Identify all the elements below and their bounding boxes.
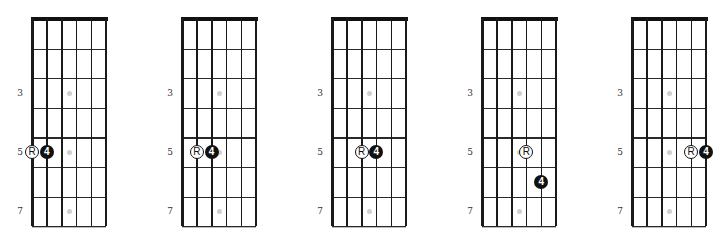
string-line	[376, 18, 378, 226]
string-line	[676, 18, 678, 226]
fret-line	[482, 137, 556, 138]
fret-line	[482, 49, 556, 50]
fret-line	[332, 137, 406, 138]
inlay-dot	[667, 91, 672, 96]
fret-number-label: 7	[614, 206, 626, 216]
fret-number-label: 5	[164, 147, 176, 157]
string-line	[346, 18, 349, 226]
string-line	[105, 18, 106, 226]
inlay-dot	[67, 150, 72, 155]
root-note-marker: R	[190, 145, 204, 159]
string-line	[46, 18, 49, 226]
inlay-dot	[517, 91, 522, 96]
fret-number-label: 7	[164, 206, 176, 216]
string-line	[555, 18, 556, 226]
string-line	[526, 18, 528, 226]
fret-line	[32, 197, 106, 198]
string-line	[541, 18, 542, 226]
string-line	[391, 18, 392, 226]
string-line	[705, 18, 706, 226]
interval-note-marker: 4	[534, 175, 548, 189]
fret-line	[632, 197, 706, 198]
fret-line	[182, 108, 256, 109]
string-line	[646, 18, 649, 226]
inlay-dot	[667, 150, 672, 155]
string-line	[76, 18, 78, 226]
string-line	[405, 18, 406, 226]
root-note-marker: R	[25, 145, 39, 159]
string-line	[661, 18, 663, 226]
fret-line	[32, 49, 106, 50]
fret-number-label: 3	[464, 88, 476, 98]
string-line	[31, 18, 34, 226]
fret-line	[482, 197, 556, 198]
fret-number-label: 7	[464, 206, 476, 216]
fret-line	[182, 167, 256, 168]
inlay-dot	[367, 91, 372, 96]
string-line	[691, 18, 692, 226]
string-line	[211, 18, 213, 226]
nut	[331, 17, 408, 21]
string-line	[196, 18, 199, 226]
fret-number-label: 5	[314, 147, 326, 157]
fret-line	[32, 78, 106, 79]
nut	[31, 17, 108, 21]
fret-number-label: 3	[314, 88, 326, 98]
interval-note-marker: 4	[369, 145, 383, 159]
fret-line	[32, 167, 106, 168]
string-line	[631, 18, 634, 226]
interval-note-marker: 4	[699, 145, 713, 159]
inlay-dot	[217, 91, 222, 96]
fretboard-edge	[632, 227, 706, 228]
fret-number-label: 3	[164, 88, 176, 98]
fretboard-edge	[332, 227, 406, 228]
string-line	[241, 18, 242, 226]
root-note-marker: R	[684, 145, 698, 159]
string-line	[255, 18, 256, 226]
string-line	[361, 18, 363, 226]
fret-line	[182, 78, 256, 79]
root-note-marker: R	[355, 145, 369, 159]
fret-line	[632, 108, 706, 109]
inlay-dot	[517, 209, 522, 214]
fret-line	[482, 167, 556, 168]
fret-line	[182, 49, 256, 50]
inlay-dot	[67, 91, 72, 96]
inlay-dot	[367, 209, 372, 214]
fret-line	[332, 167, 406, 168]
fret-line	[32, 137, 106, 138]
interval-note-marker: 4	[205, 145, 219, 159]
fret-number-label: 7	[14, 206, 26, 216]
fret-line	[332, 197, 406, 198]
string-line	[481, 18, 484, 226]
string-line	[61, 18, 63, 226]
fret-number-label: 3	[614, 88, 626, 98]
fretboard-edge	[182, 227, 256, 228]
fretboard-edge	[482, 227, 556, 228]
fret-line	[332, 49, 406, 50]
fret-line	[482, 78, 556, 79]
string-line	[226, 18, 228, 226]
fret-line	[632, 78, 706, 79]
fret-line	[632, 167, 706, 168]
fret-line	[482, 108, 556, 109]
string-line	[331, 18, 334, 226]
string-line	[511, 18, 513, 226]
interval-note-marker: 4	[40, 145, 54, 159]
inlay-dot	[667, 209, 672, 214]
inlay-dot	[217, 209, 222, 214]
root-note-marker: R	[519, 145, 533, 159]
fret-line	[632, 49, 706, 50]
fret-number-label: 7	[314, 206, 326, 216]
inlay-dot	[67, 209, 72, 214]
string-line	[181, 18, 184, 226]
fret-line	[332, 108, 406, 109]
string-line	[496, 18, 499, 226]
fret-number-label: 5	[464, 147, 476, 157]
fret-line	[32, 108, 106, 109]
fret-line	[632, 137, 706, 138]
fret-number-label: 3	[14, 88, 26, 98]
fret-number-label: 5	[614, 147, 626, 157]
nut	[481, 17, 558, 21]
fretboard-edge	[32, 227, 106, 228]
